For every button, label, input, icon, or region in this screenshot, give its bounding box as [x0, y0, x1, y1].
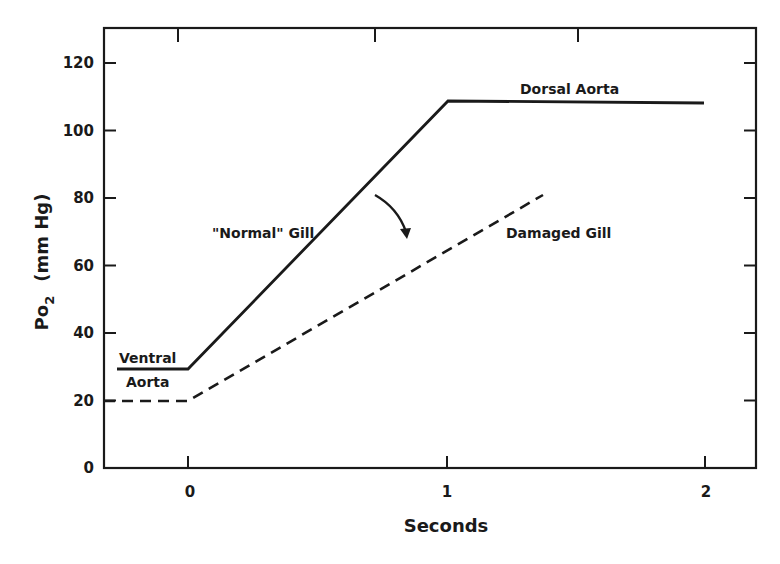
chart-canvas: 0 20 40 60 80 100 120 0 1 2 Seconds Po2(… [0, 0, 780, 564]
y-tick-label: 60 [73, 257, 94, 275]
x-tick-labels: 0 1 2 [185, 483, 711, 501]
y-axis-title: Po2(mm Hg) [31, 194, 57, 331]
label-damaged-gill: Damaged Gill [506, 225, 611, 241]
x-tick-label: 0 [185, 483, 195, 501]
svg-text:Po2(mm Hg): Po2(mm Hg) [31, 194, 57, 331]
y-axis-title-sub: 2 [42, 296, 57, 305]
curved-arrow-icon [375, 195, 406, 232]
x-axis-title: Seconds [404, 515, 489, 536]
plot-frame [104, 28, 756, 468]
series-normal-gill-line [117, 101, 704, 369]
label-dorsal-aorta: Dorsal Aorta [520, 81, 619, 97]
y-axis-ticks-left [104, 63, 116, 401]
label-normal-gill: "Normal" Gill [212, 225, 314, 241]
x-tick-label: 1 [442, 483, 452, 501]
y-axis-ticks-right [744, 63, 756, 401]
label-ventral: Ventral [119, 350, 176, 366]
y-tick-label: 40 [73, 324, 94, 342]
y-tick-label: 120 [63, 54, 94, 72]
arrowhead-icon [400, 228, 411, 239]
y-tick-labels: 0 20 40 60 80 100 120 [63, 54, 94, 477]
y-tick-label: 100 [63, 122, 94, 140]
y-axis-title-units: (mm Hg) [31, 194, 52, 282]
x-tick-label: 2 [701, 483, 711, 501]
y-tick-label: 0 [84, 459, 94, 477]
label-aorta: Aorta [126, 374, 170, 390]
x-axis-ticks-bottom [188, 456, 705, 468]
y-tick-label: 20 [73, 392, 94, 410]
y-axis-title-main: Po [31, 305, 52, 331]
y-tick-label: 80 [73, 189, 94, 207]
x-axis-ticks-top [178, 28, 578, 42]
